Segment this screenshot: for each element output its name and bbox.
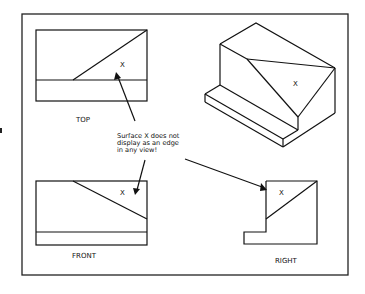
diagram-frame (22, 14, 348, 275)
arrow-to-right (185, 159, 262, 187)
top-view-label: TOP (75, 116, 90, 124)
orthographic-projection-diagram: X TOP X FRONT X RIGHT (0, 0, 365, 294)
top-surface-label: X (120, 61, 125, 69)
iso-surface-label: X (293, 80, 298, 88)
annotation-line-3: in any view! (117, 146, 157, 154)
right-view-label: RIGHT (275, 257, 298, 265)
right-view: X RIGHT (244, 181, 317, 265)
arrow-to-top (118, 77, 135, 121)
arrow-to-front (137, 160, 145, 190)
front-surface-label: X (120, 189, 125, 197)
right-surface-label: X (279, 189, 284, 197)
annotation: Surface X does not display as an edge in… (114, 72, 267, 195)
margin-mark (0, 128, 2, 133)
front-view: X FRONT (36, 181, 147, 260)
front-view-label: FRONT (72, 252, 97, 260)
arrowhead-top-icon (114, 72, 121, 80)
arrowhead-front-icon (133, 188, 140, 195)
isometric-view: X (205, 23, 335, 147)
